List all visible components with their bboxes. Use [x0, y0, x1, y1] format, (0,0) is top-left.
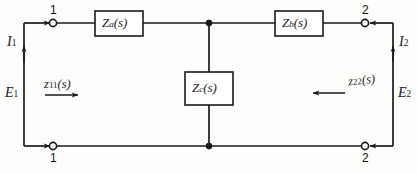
terminal-label-2-bottom: 2 [362, 152, 369, 164]
terminal-node-1-top[interactable] [49, 19, 56, 26]
impedance-label-zc: Zc(s) [192, 81, 217, 94]
circuit-diagram: Za(s) Zb(s) Zc(s) 1 1 2 2 I1 E1 I2 E2 z1… [0, 0, 417, 173]
output-current-label: I2 [399, 35, 408, 49]
impedance-label-zb: Zb(s) [282, 16, 307, 29]
terminal-label-1-bottom: 1 [50, 152, 57, 164]
input-voltage-label: E1 [5, 86, 18, 100]
terminal-node-2-bottom[interactable] [361, 142, 368, 149]
impedance-label-za: Za(s) [102, 16, 127, 29]
terminal-node-2-top[interactable] [361, 19, 368, 26]
input-impedance-label: z11(s) [44, 78, 71, 91]
input-current-label: I1 [7, 35, 16, 49]
output-voltage-label: E2 [398, 86, 411, 100]
terminal-node-1-bottom[interactable] [49, 142, 56, 149]
output-impedance-label: z22(s) [347, 73, 375, 88]
terminal-label-1-top: 1 [50, 4, 57, 16]
terminal-label-2-top: 2 [362, 4, 369, 16]
